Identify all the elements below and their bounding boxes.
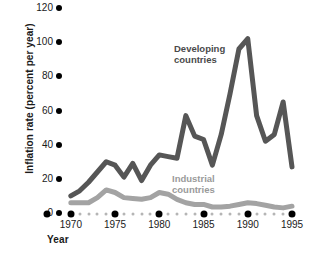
series-label-developing-countries: Developing countries (174, 43, 225, 65)
x-minor-tick-dot-1973 (96, 213, 99, 216)
x-major-tick-dot-1975 (112, 211, 119, 218)
x-tick-label-1970: 1970 (60, 219, 82, 230)
x-major-tick-dot-1995 (289, 211, 296, 218)
x-minor-tick-dot-1978 (140, 213, 143, 216)
x-major-tick-dot-1970 (67, 211, 74, 218)
x-tick-label-1975: 1975 (104, 219, 126, 230)
y-tick-80: 80 (42, 70, 62, 82)
x-axis-tick-group: 197019751980198519901995 (0, 219, 315, 235)
y-tick-100: 100 (36, 36, 62, 48)
series-label-developing-line1: Developing (174, 43, 225, 54)
series-label-industrial-line2: countries (172, 184, 215, 195)
x-minor-tick-dot-1983 (184, 213, 187, 216)
y-tick-60: 60 (42, 105, 62, 117)
y-tick-label: 120 (36, 2, 53, 14)
x-axis-title: Year (47, 234, 69, 245)
x-minor-tick-dot-1979 (149, 213, 152, 216)
x-minor-tick-dot-1977 (131, 213, 134, 216)
x-major-tick-dot-1985 (200, 211, 207, 218)
y-tick-label: 60 (42, 105, 53, 117)
x-minor-tick-dot-1987 (220, 213, 223, 216)
x-major-tick-dot-1990 (244, 211, 251, 218)
x-minor-tick-dot-1976 (122, 213, 125, 216)
x-minor-tick-dot-1994 (282, 213, 285, 216)
x-minor-tick-dot-1989 (237, 213, 240, 216)
x-major-tick-dot-1980 (156, 211, 163, 218)
series-label-industrial-line1: Industrial (172, 173, 215, 184)
y-tick-40: 40 (42, 139, 62, 151)
x-tick-label-1980: 1980 (148, 219, 170, 230)
y-tick-20: 20 (42, 173, 62, 185)
x-minor-tick-dot-1972 (87, 213, 90, 216)
x-minor-tick-dot-1984 (193, 213, 196, 216)
x-minor-tick-dot-1988 (229, 213, 232, 216)
series-label-developing-line2: countries (174, 54, 225, 65)
x-minor-tick-dot-1993 (273, 213, 276, 216)
x-tick-label-1995: 1995 (281, 219, 303, 230)
axis-origin-dot (44, 211, 51, 218)
x-tick-label-1990: 1990 (237, 219, 259, 230)
x-minor-tick-dot-1981 (167, 213, 170, 216)
y-tick-label: 80 (42, 70, 53, 82)
x-minor-tick-dot-1991 (255, 213, 258, 216)
x-minor-tick-dot-1974 (105, 213, 108, 216)
series-label-industrial-countries: Industrial countries (172, 173, 215, 195)
inflation-rate-chart: Inflation rate (percent per year) 120100… (0, 0, 315, 258)
x-minor-tick-dot-1971 (78, 213, 81, 216)
y-tick-label: 40 (42, 139, 53, 151)
y-tick-label: 100 (36, 36, 53, 48)
x-minor-tick-dot-1982 (176, 213, 179, 216)
x-minor-tick-dot-1986 (211, 213, 214, 216)
y-tick-label: 20 (42, 173, 53, 185)
x-tick-label-1985: 1985 (192, 219, 214, 230)
x-minor-tick-dot-1992 (264, 213, 267, 216)
y-tick-120: 120 (36, 2, 62, 14)
